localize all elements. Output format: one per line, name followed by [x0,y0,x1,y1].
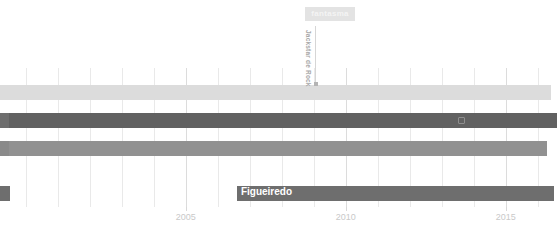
tick-mark [346,207,347,211]
bar-stub [0,141,9,156]
bar-marker [458,117,465,124]
plot-area: Jackstar de Rock fantasma Figueiredo [0,0,557,207]
bar-stub [0,186,9,201]
tick-mark [186,207,187,211]
leader-line [315,26,316,84]
bar-segment [0,141,547,156]
tick-label: 2010 [336,212,356,222]
x-axis: 200520102015 [0,207,557,233]
tick-label: 2005 [176,212,196,222]
leader-annotation-label: Jackstar de Rock [305,30,312,87]
bar-stub [0,113,9,128]
bar-segment [0,113,557,128]
tick-label: 2015 [496,212,516,222]
bar-callout-label: Figueiredo [241,186,292,198]
leader-dot [314,82,318,86]
bar-segment [0,85,551,100]
pill-annotation-label: fantasma [305,7,355,21]
tick-mark [506,207,507,211]
timeline-chart: Jackstar de Rock fantasma Figueiredo 200… [0,0,557,233]
